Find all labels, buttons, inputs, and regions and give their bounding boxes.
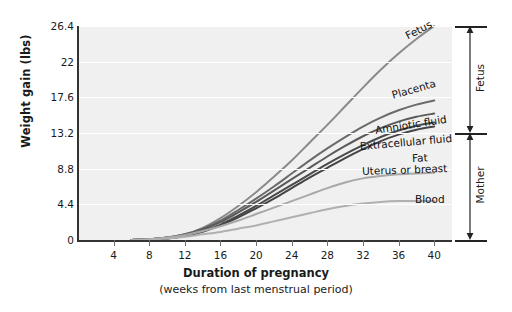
x-tick-label: 28 [321,249,334,261]
plot-area [78,26,452,240]
x-tick-mark [256,240,257,246]
x-tick-label: 12 [178,249,191,261]
x-tick-label: 40 [428,249,441,261]
curve-label-fat: Fat [412,152,413,164]
gridline [78,62,452,63]
x-tick-mark [114,240,115,246]
y-tick-label: 17.6 [30,91,74,103]
x-tick-mark [185,240,186,246]
x-axis-title: Duration of pregnancy [0,266,512,280]
x-tick-label: 24 [285,249,298,261]
x-tick-mark [363,240,364,246]
y-tick-label: 26.4 [30,20,74,32]
x-tick-mark [292,240,293,246]
x-tick-mark [220,240,221,246]
x-tick-label: 16 [214,249,227,261]
y-axis-line [77,26,79,241]
x-tick-mark [434,240,435,246]
x-tick-label: 8 [146,249,153,261]
x-tick-mark [399,240,400,246]
y-tick-label: 0 [30,234,74,246]
curve-label-extracellular-fluid: Extracellular fluid [359,140,360,152]
y-tick-label: 13.2 [30,127,74,139]
gridline [78,204,452,205]
y-tick-label: 4.4 [30,198,74,210]
x-tick-label: 20 [249,249,262,261]
gridline [78,133,452,134]
x-tick-mark [327,240,328,246]
series-line [131,173,434,240]
weight-gain-pregnancy-chart: Weight gain (lbs) 04.48.813.217.62226.4 … [0,0,512,312]
x-tick-label: 32 [356,249,369,261]
series-line [131,201,434,240]
x-tick-label: 36 [392,249,405,261]
y-tick-label: 22 [30,56,74,68]
y-tick-label: 8.8 [30,163,74,175]
bracket-label-fetus: Fetus [474,48,486,108]
x-tick-mark [149,240,150,246]
gridline [78,26,452,27]
bracket-cap [455,240,487,242]
x-axis-subtitle: (weeks from last menstrual period) [0,283,512,296]
bracket-label-mother: Mother [474,155,486,215]
x-tick-label: 4 [110,249,117,261]
